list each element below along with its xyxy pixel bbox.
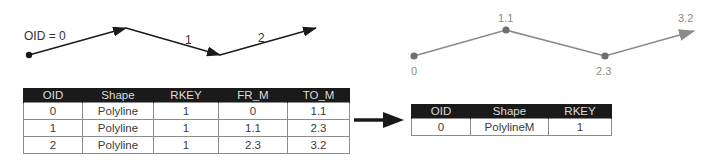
measure-label-2: 2.3	[596, 65, 611, 77]
route-line	[414, 30, 694, 56]
cell-shape: Polyline	[83, 137, 154, 154]
right-arrow-icon	[354, 112, 404, 128]
cell-to-m: 1.1	[288, 103, 350, 120]
column-header-oid: OID	[24, 88, 83, 103]
segment-1	[126, 28, 220, 55]
cell-rkey: 1	[154, 120, 219, 137]
cell-shape: Polyline	[83, 103, 154, 120]
table-header-row: OID Shape RKEY	[412, 104, 612, 119]
column-header-oid: OID	[412, 104, 471, 119]
column-header-shape: Shape	[471, 104, 549, 119]
segment-label-1: 1	[185, 33, 192, 47]
cell-to-m: 2.3	[288, 120, 350, 137]
route-attribute-table: OID Shape RKEY 0 PolylineM 1	[411, 104, 612, 136]
cell-to-m: 3.2	[288, 137, 350, 154]
route-conversion-figure: OID = 0 1 2 0 1.1 2.3 3.2 OID Shape	[0, 0, 712, 164]
table-row: 2 Polyline 1 2.3 3.2	[24, 137, 350, 154]
cell-rkey: 1	[154, 103, 219, 120]
table-header-row: OID Shape RKEY FR_M TO_M	[24, 88, 350, 103]
right-route-polylinem: 0 1.1 2.3 3.2	[410, 12, 694, 77]
column-header-shape: Shape	[83, 88, 154, 103]
table-row: 0 Polyline 1 0 1.1	[24, 103, 350, 120]
cell-fr-m: 1.1	[219, 120, 288, 137]
cell-shape: Polyline	[83, 120, 154, 137]
cell-oid: 0	[412, 119, 471, 136]
column-header-rkey: RKEY	[549, 104, 612, 119]
cell-rkey: 1	[549, 119, 612, 136]
cell-oid: 0	[24, 103, 83, 120]
cell-rkey: 1	[154, 137, 219, 154]
polyline-attribute-table: OID Shape RKEY FR_M TO_M 0 Polyline 1 0 …	[23, 88, 350, 154]
measure-label-1: 1.1	[498, 12, 513, 24]
cell-oid: 1	[24, 120, 83, 137]
cell-fr-m: 0	[219, 103, 288, 120]
cell-fr-m: 2.3	[219, 137, 288, 154]
measure-label-3: 3.2	[678, 12, 693, 24]
measure-point-icon	[601, 52, 608, 59]
segment-label-2: 2	[258, 31, 265, 45]
cell-shape: PolylineM	[471, 119, 549, 136]
segment-2	[220, 28, 316, 55]
cell-oid: 2	[24, 137, 83, 154]
measure-point-icon	[410, 52, 417, 59]
oid-label: OID = 0	[24, 29, 66, 43]
column-header-fr-m: FR_M	[219, 88, 288, 103]
measure-label-0: 0	[411, 65, 417, 77]
left-polyline-segments: OID = 0 1 2	[24, 28, 316, 58]
table-row: 0 PolylineM 1	[412, 119, 612, 136]
measure-point-icon	[502, 26, 509, 33]
column-header-rkey: RKEY	[154, 88, 219, 103]
table-row: 1 Polyline 1 1.1 2.3	[24, 120, 350, 137]
column-header-to-m: TO_M	[288, 88, 350, 103]
